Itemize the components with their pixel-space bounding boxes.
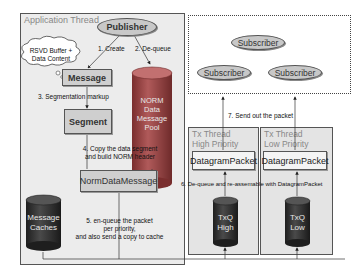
txq-low-line-1: TxQ (285, 213, 310, 223)
subscriber-node-right: Subscriber (268, 65, 322, 80)
step-enqueue-line-2: per priority, (72, 225, 167, 233)
norm-data-message-label: NormDataMessage (80, 176, 158, 186)
datagram-packet-low: DatagramPacket (263, 151, 327, 170)
step-enqueue-line-1: 5. en-queue the packet (72, 217, 167, 225)
datagram-packet-low-label: DatagramPacket (261, 156, 328, 166)
subscriber-node-left: Subscriber (197, 65, 251, 80)
step-copy-label: 4. Copy the data segment and build NORM … (75, 145, 165, 161)
txq-low-label: TxQ Low (285, 213, 310, 233)
step-enqueue-line-3: and also send a copy to cache (72, 233, 167, 241)
step-send-out-label: 7. Send out the packet (228, 112, 293, 120)
step-create-label: 1. Create (98, 45, 125, 53)
segment-label: Segment (69, 117, 107, 127)
datagram-packet-high-label: DatagramPacket (190, 156, 257, 166)
publisher-node: Publisher (97, 18, 157, 36)
norm-data-message-box: NormDataMessage (80, 170, 157, 192)
norm-pool-line-3: Message (132, 114, 172, 123)
subscriber-label: Subscriber (238, 38, 279, 48)
message-box: Message (62, 69, 112, 86)
norm-pool-line-1: NORM (132, 96, 172, 105)
segment-box: Segment (64, 109, 112, 134)
message-caches-line-1: Message (26, 213, 61, 223)
txq-low-line-2: Low (285, 223, 310, 233)
step-reassemble-label: 6. De-queue and re-assemable with Datagr… (181, 180, 322, 188)
diagram-graphics (0, 0, 357, 279)
subscriber-node-top: Subscriber (231, 35, 285, 50)
norm-pool-line-4: Pool (132, 123, 172, 132)
step-copy-line-1: 4. Copy the data segment (75, 145, 165, 153)
norm-pool-line-2: Data (132, 105, 172, 114)
txq-high-line-2: High (213, 223, 238, 233)
publisher-label: Publisher (106, 22, 147, 32)
subscriber-label: Subscriber (275, 68, 316, 78)
step-dequeue-label: 2. De-queue (135, 45, 171, 53)
datagram-packet-high: DatagramPacket (192, 151, 255, 170)
cloud-line-2: Data Content (26, 55, 76, 63)
norm-pool-label: NORM Data Message Pool (132, 96, 172, 132)
message-label: Message (68, 73, 106, 83)
step-copy-line-2: and build NORM header (75, 153, 165, 161)
cloud-label: RSVD Buffer + Data Content (26, 47, 76, 63)
txq-high-label: TxQ High (213, 213, 238, 233)
txq-high-line-1: TxQ (213, 213, 238, 223)
subscriber-label: Subscriber (204, 68, 245, 78)
message-caches-line-2: Caches (26, 223, 61, 233)
message-caches-label: Message Caches (26, 213, 61, 233)
step-segmentation-label: 3. Segmentation markup (38, 93, 109, 101)
cloud-line-1: RSVD Buffer + (26, 47, 76, 55)
step-enqueue-label: 5. en-queue the packet per priority, and… (72, 217, 167, 241)
